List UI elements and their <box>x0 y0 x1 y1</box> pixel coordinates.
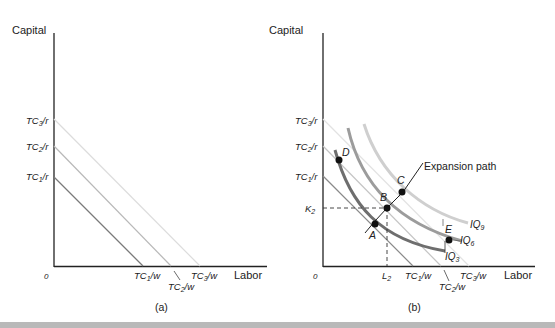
expansion-path-label: Expansion path <box>424 160 497 172</box>
panel-a-tc1-r-label: TC1/r <box>26 171 49 183</box>
panel-a-tc1-w-label: TC1/w <box>134 270 161 282</box>
panel-b-origin: 0 <box>313 272 318 281</box>
panel-b-tc2-r-label: TC2/r <box>295 141 318 153</box>
l2-label: L2 <box>382 270 391 282</box>
point-a-label: A <box>368 229 376 241</box>
point-e-label: E <box>445 223 453 235</box>
panel-a-tc3-r-label: TC3/r <box>26 115 49 127</box>
panel-b-isocost-tc1 <box>323 176 413 266</box>
panel-b-tc2-w-label: TC2/w <box>439 281 466 293</box>
isocost-expansion-figure: Capital Labor 0 TC3/r TC2/r TC1/r TC1/w … <box>0 0 555 328</box>
panel-a-tc3-w-label: TC3/w <box>191 270 218 282</box>
panel-b-y-axis-label: Capital <box>269 24 303 36</box>
point-b-label: B <box>380 191 387 203</box>
point-a <box>372 221 379 228</box>
panel-b-x-axis-label: Labor <box>504 269 532 281</box>
panel-a-tc2-w-label: TC2/w <box>168 281 195 293</box>
panel-b-caption: (b) <box>408 301 421 313</box>
panel-b-tc2-leader <box>444 270 449 281</box>
k2-label: K2 <box>305 203 315 215</box>
panel-b-tc3-w-label: TC3/w <box>460 270 487 282</box>
point-e <box>446 237 453 244</box>
panel-a-isocost-tc1 <box>54 177 143 266</box>
panel-a-isocost-tc2 <box>54 146 171 266</box>
panel-b-isocost-tc3 <box>323 119 469 266</box>
panel-b-tc1-r-label: TC1/r <box>295 171 318 183</box>
panel-a: Capital Labor 0 TC3/r TC2/r TC1/r TC1/w … <box>12 24 267 313</box>
iq6-label: IQ6 <box>460 235 475 247</box>
panel-b: Capital Labor 0 Expansion path A B C D <box>269 24 535 313</box>
panel-a-y-axis-label: Capital <box>12 24 46 36</box>
point-c <box>399 189 406 196</box>
point-b <box>384 205 391 212</box>
panel-a-x-axis-label: Labor <box>234 269 262 281</box>
panel-a-isocost-tc3 <box>54 119 200 266</box>
panel-b-tc3-r-label: TC3/r <box>295 115 318 127</box>
panel-b-tc1-w-label: TC1/w <box>405 270 432 282</box>
panel-a-origin: 0 <box>44 272 49 281</box>
iq3-label: IQ3 <box>445 251 460 263</box>
panel-a-tc2-r-label: TC2/r <box>26 141 49 153</box>
point-d-label: D <box>342 146 350 158</box>
panel-a-caption: (a) <box>155 301 168 313</box>
panel-a-tc2-leader <box>174 271 180 280</box>
point-c-label: C <box>397 174 405 186</box>
bottom-divider-bar <box>0 322 555 328</box>
iq9-label: IQ9 <box>470 219 485 231</box>
